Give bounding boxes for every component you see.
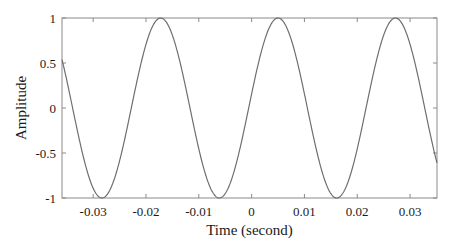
y-tick-label: 0 xyxy=(50,101,57,116)
x-axis-label: Time (second) xyxy=(206,222,293,239)
chart: -0.03-0.02-0.0100.010.020.03 10.50-0.5-1… xyxy=(0,0,452,248)
y-tick-label: 1 xyxy=(50,11,57,26)
x-axis-ticks: -0.03-0.02-0.0100.010.020.03 xyxy=(80,18,422,219)
x-tick-label: 0 xyxy=(248,204,255,219)
x-tick-label: -0.01 xyxy=(185,204,212,219)
signal-curve xyxy=(62,18,437,198)
y-tick-label: 0.5 xyxy=(40,56,56,71)
x-tick-label: 0.02 xyxy=(346,204,369,219)
y-tick-label: -1 xyxy=(45,191,56,206)
plot-area: -0.03-0.02-0.0100.010.020.03 10.50-0.5-1 xyxy=(35,11,437,219)
x-tick-label: -0.03 xyxy=(80,204,107,219)
x-tick-label: -0.02 xyxy=(132,204,159,219)
x-tick-label: 0.03 xyxy=(399,204,422,219)
x-tick-label: 0.01 xyxy=(293,204,316,219)
y-tick-label: -0.5 xyxy=(35,146,56,161)
y-axis-label: Amplitude xyxy=(13,76,29,141)
y-axis-ticks: 10.50-0.5-1 xyxy=(35,11,437,206)
